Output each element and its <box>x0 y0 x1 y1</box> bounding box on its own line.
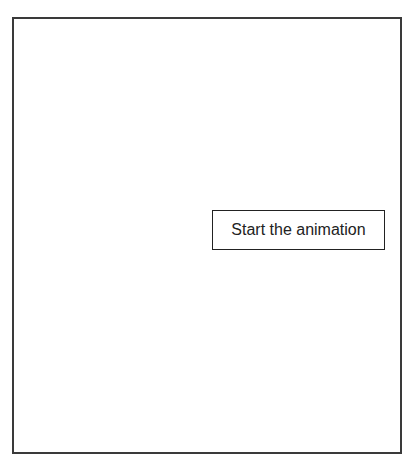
start-animation-button[interactable]: Start the animation <box>212 210 385 250</box>
animation-canvas: Start the animation <box>12 17 402 454</box>
